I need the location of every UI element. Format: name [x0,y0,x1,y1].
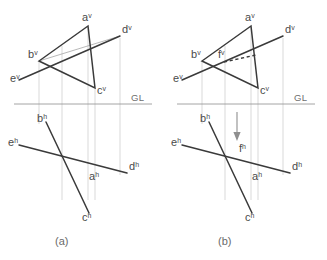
panel-a-vertical-view: av bv cv dv ev [10,11,132,96]
caption-a: (a) [55,235,68,247]
panel-a-ground-line-group: GL [14,92,152,104]
triangle-abc-vertical [39,26,95,88]
label-e-vertical: ev [173,72,183,84]
line-ed-horizontal [19,145,127,173]
line-bc-horizontal [209,122,252,213]
label-e-horizontal: eh [8,136,18,148]
label-d-horizontal: dh [129,160,139,172]
panel-b-vertical-view: av bv fv cv dv ev [173,11,295,96]
ground-line-label: GL [131,92,144,103]
panel-a-horizontal-view: bh eh ah dh ch [8,112,139,223]
auxiliary-line-bd-vertical [39,36,120,61]
label-e-vertical: ev [10,72,20,84]
label-c-vertical: cv [97,84,107,96]
label-c-horizontal: ch [245,211,255,223]
line-ed-horizontal [182,145,290,173]
caption-b: (b) [218,235,231,247]
label-f-horizontal: fh [239,142,246,154]
panel-b-transfer-arrow [233,112,240,141]
technical-drawing-figure: av bv cv dv ev GL bh eh ah dh ch (a) [0,0,327,260]
line-ed-vertical [182,36,283,80]
panel-b-group: av bv fv cv dv ev GL bh eh fh [171,11,315,247]
panel-b-ground-line-group: GL [177,92,315,104]
label-f-vertical: fv [218,48,225,60]
label-d-vertical: dv [285,23,295,35]
label-b-vertical: bv [191,48,201,60]
label-d-vertical: dv [122,23,132,35]
label-d-horizontal: dh [292,160,302,172]
label-b-vertical: bv [28,48,38,60]
line-ed-vertical [19,36,120,80]
label-a-vertical: av [82,11,92,23]
projection-diagram-svg: av bv cv dv ev GL bh eh ah dh ch (a) [0,0,327,260]
label-a-vertical: av [245,11,255,23]
line-bc-horizontal [46,122,89,213]
label-a-horizontal: ah [252,170,262,182]
panel-a-group: av bv cv dv ev GL bh eh ah dh ch (a) [8,11,152,247]
label-e-horizontal: eh [171,136,181,148]
label-c-horizontal: ch [82,211,92,223]
ground-line-label: GL [294,92,307,103]
label-a-horizontal: ah [89,170,99,182]
transfer-arrow-head-icon [233,132,240,141]
label-c-vertical: cv [260,84,270,96]
